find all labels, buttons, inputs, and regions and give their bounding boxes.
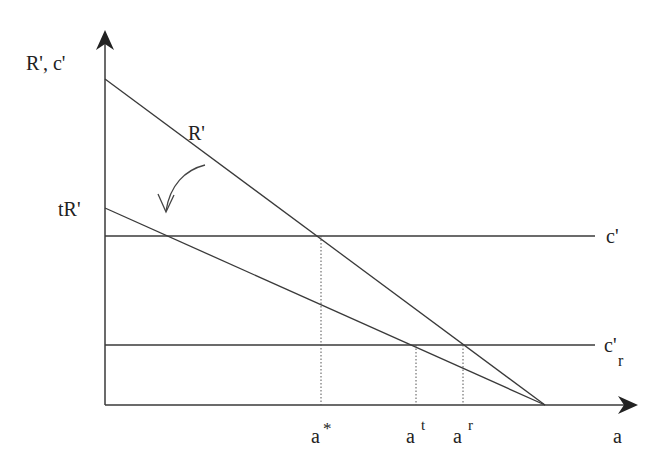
x-axis [105,396,638,414]
y-axis [96,30,114,405]
a-star-label-base: a [311,425,320,447]
a-t-label-base: a [406,425,415,447]
rotation-arrow-icon [158,165,205,212]
diagram-canvas: R', c' R' tR' c' c' r a * a t a r a [0,0,668,468]
r-prime-label: R' [188,122,205,144]
y-axis-label: R', c' [26,52,65,74]
c-prime-r-label: c' [604,334,616,356]
r-prime-line [105,79,545,405]
a-r-label-sup: r [468,417,473,433]
a-t-label-sup: t [421,417,426,433]
a-star-label-sup: * [323,419,332,438]
tr-prime-label: tR' [58,198,81,220]
c-prime-r-subscript: r [618,352,624,369]
a-r-label-base: a [453,425,462,447]
x-axis-label: a [613,425,622,447]
tr-prime-line [105,208,545,405]
c-prime-label: c' [606,225,618,247]
